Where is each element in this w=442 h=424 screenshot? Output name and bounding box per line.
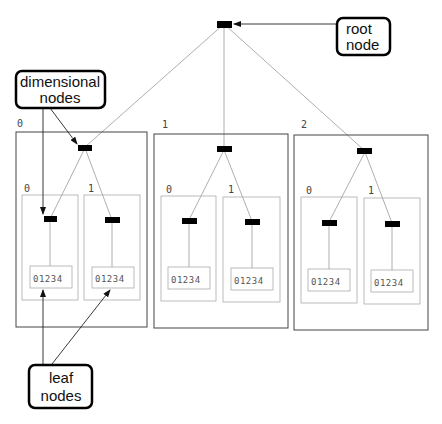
dimensional-node [78,145,92,151]
callout-root-line1: root [346,20,373,37]
dimensional-node [245,219,260,225]
callout-root-line2: node [346,36,379,53]
callout-dimensional-line1: dimensional [20,73,100,90]
root-node [217,21,232,28]
child-index-label: 0 [24,183,30,194]
leaf-node-values: 01234 [33,274,63,284]
child-index-label: 1 [228,184,234,195]
dimensional-node [182,218,197,224]
child-index-label: 1 [368,185,374,196]
leaf-node-values: 01234 [171,275,201,285]
callout-root-node: root node [234,18,390,55]
block-box [154,134,288,328]
dimensional-node [44,216,57,222]
callout-leaf-line2: nodes [41,387,82,404]
callout-leaf-line1: leaf [49,369,74,386]
leaf-node-values: 01234 [95,274,125,284]
dimensional-node [322,220,337,226]
dimensional-node [217,146,232,152]
block-0: 0 0 01234 1 01234 [16,118,147,327]
block-index-label: 1 [162,119,168,130]
tree-diagram: 0 0 01234 1 01234 1 0 [0,0,442,424]
leaf-node-values: 01234 [311,277,341,287]
child-index-label: 0 [306,185,312,196]
dimensional-node [385,221,400,227]
child-index-label: 1 [88,183,94,194]
block-index-label: 0 [17,118,23,129]
child-index-label: 0 [166,184,172,195]
block-index-label: 2 [301,119,307,130]
block-box [294,135,428,330]
dimensional-node [105,217,120,223]
block-1: 1 0 01234 1 01234 [154,119,288,328]
callout-dimensional-line2: nodes [40,89,81,106]
block-box [16,132,147,327]
leaf-node-values: 01234 [374,278,404,288]
dimensional-node [357,148,372,154]
block-2: 2 0 01234 1 01234 [294,119,428,330]
leaf-node-values: 01234 [234,276,264,286]
callout-leaf-nodes: leaf nodes [29,290,110,408]
